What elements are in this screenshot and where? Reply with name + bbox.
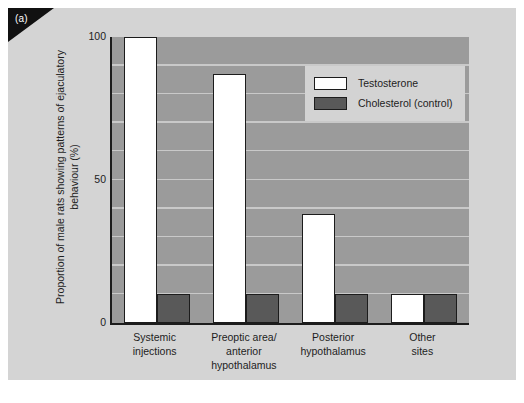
legend-item: Cholesterol (control) bbox=[314, 93, 456, 113]
bar bbox=[424, 294, 457, 323]
legend-label: Testosterone bbox=[358, 77, 418, 89]
bar bbox=[157, 294, 190, 323]
bar bbox=[335, 294, 368, 323]
bar bbox=[124, 37, 157, 323]
panel-corner-flag: (a) bbox=[8, 8, 54, 42]
bar-group bbox=[112, 37, 201, 323]
y-tick-label: 100 bbox=[72, 31, 106, 42]
y-tick-label: 50 bbox=[72, 174, 106, 185]
x-tick-label: Preoptic area/anteriorhypothalamus bbox=[199, 330, 288, 372]
bar-group bbox=[201, 37, 290, 323]
bar bbox=[213, 74, 246, 323]
legend-swatch bbox=[314, 97, 347, 110]
legend-item: Testosterone bbox=[314, 73, 456, 93]
x-tick-label: Othersites bbox=[378, 330, 467, 358]
legend: TestosteroneCholesterol (control) bbox=[305, 66, 465, 121]
bar bbox=[391, 294, 424, 323]
x-tick-label: Systemicinjections bbox=[110, 330, 199, 358]
y-tick-label: 0 bbox=[72, 317, 106, 328]
figure-panel: (a) Proportion of male rats showing patt… bbox=[8, 8, 516, 380]
y-axis-tick-labels: 050100 bbox=[68, 37, 106, 323]
x-tick-label: Posteriorhypothalamus bbox=[289, 330, 378, 358]
bar bbox=[246, 294, 279, 323]
panel-label: (a) bbox=[15, 13, 28, 25]
legend-swatch bbox=[314, 77, 347, 90]
legend-label: Cholesterol (control) bbox=[358, 97, 453, 109]
bar bbox=[302, 214, 335, 323]
x-axis-tick-labels: SystemicinjectionsPreoptic area/anterior… bbox=[110, 330, 467, 380]
